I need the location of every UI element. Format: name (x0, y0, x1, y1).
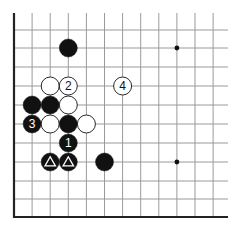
black-stone (96, 153, 114, 171)
white-stone (77, 115, 95, 133)
black-stone-icon (41, 96, 59, 114)
white-stone-icon (41, 77, 59, 95)
white-stone (41, 115, 59, 133)
black-stone-icon (59, 115, 77, 133)
move-number-label: 4 (119, 79, 126, 93)
black-stone-icon (59, 39, 77, 57)
black-stone (59, 153, 77, 171)
black-stone (41, 96, 59, 114)
grid-lines (13, 13, 228, 218)
white-stone (41, 77, 59, 95)
move-number-label: 2 (65, 79, 72, 93)
black-stone (41, 153, 59, 171)
move-number-label: 1 (65, 136, 72, 150)
black-stone (23, 96, 41, 114)
go-board: 2431 (0, 0, 243, 229)
star-point-icon (175, 46, 180, 51)
white-stone-icon (77, 115, 95, 133)
white-stone (59, 96, 77, 114)
black-stone-icon (96, 153, 114, 171)
star-point-icon (175, 160, 180, 165)
white-stone-2: 2 (59, 77, 77, 95)
white-stone-icon (41, 115, 59, 133)
black-stone (59, 115, 77, 133)
black-stone-3: 3 (23, 115, 41, 133)
black-stone-icon (23, 96, 41, 114)
black-stone-1: 1 (59, 134, 77, 152)
white-stone-4: 4 (114, 77, 132, 95)
move-number-label: 3 (29, 117, 36, 131)
white-stone-icon (59, 96, 77, 114)
black-stone (59, 39, 77, 57)
